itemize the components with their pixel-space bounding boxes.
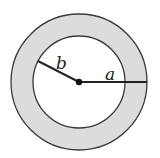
- center-point: [76, 79, 82, 85]
- inner-radius-label: b: [56, 53, 67, 73]
- outer-radius-label: a: [105, 64, 115, 84]
- annulus-diagram: b a: [0, 0, 160, 158]
